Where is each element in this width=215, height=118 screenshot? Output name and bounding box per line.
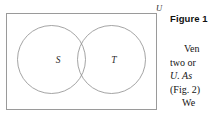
body-line: We [170, 96, 215, 110]
figure-caption: Figure 1 [170, 13, 208, 24]
venn-diagram-svg: S T U [0, 0, 163, 118]
set-t-label: T [111, 55, 117, 65]
body-paragraph: Ven two or U. As (Fig. 2) We [170, 42, 215, 110]
body-line: U. As [170, 69, 215, 83]
body-line: Ven [170, 42, 215, 56]
universal-set-label: U [156, 3, 163, 13]
text-column: Figure 1 Ven two or U. As (Fig. 2) We [170, 0, 215, 118]
venn-diagram-figure: S T U [0, 0, 163, 118]
set-s-label: S [56, 55, 61, 65]
set-s-circle [18, 26, 86, 94]
document-page: S T U Figure 1 Ven two or U. As (Fig. 2)… [0, 0, 215, 118]
body-line: (Fig. 2) [170, 83, 215, 97]
body-line: two or [170, 56, 215, 70]
universal-set-rectangle [7, 14, 157, 110]
